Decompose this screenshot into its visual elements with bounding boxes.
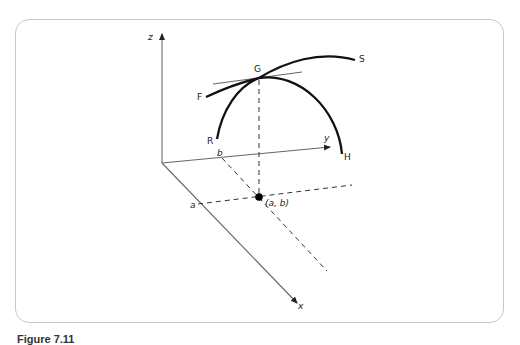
label-a: a <box>190 200 196 210</box>
x-axis-label: x <box>297 301 304 311</box>
label-ab: (a, b) <box>265 198 289 208</box>
b-parallel-line <box>222 158 327 271</box>
x-axis <box>162 163 297 303</box>
label-f: F <box>197 92 202 102</box>
curves <box>206 56 355 154</box>
point-ab <box>255 193 263 201</box>
figure-caption: Figure 7.11 <box>17 333 74 345</box>
projection-lines <box>198 80 352 271</box>
axes <box>162 34 330 303</box>
label-g: G <box>254 64 261 74</box>
label-r: R <box>207 136 213 146</box>
label-b: b <box>217 148 223 158</box>
label-h: H <box>344 152 351 162</box>
label-s: S <box>359 54 365 64</box>
curve-fs <box>206 56 355 97</box>
y-axis <box>162 147 330 163</box>
y-axis-label: y <box>323 133 330 143</box>
z-axis-label: z <box>147 32 153 42</box>
